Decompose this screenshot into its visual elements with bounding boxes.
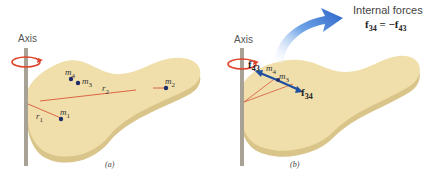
force-f43-label: f43: [248, 58, 260, 73]
mass-m4-label: m4: [266, 63, 276, 76]
mass-m3-dot: [76, 81, 80, 85]
axis-label: Axis: [234, 34, 253, 45]
callout-arrow-icon: [275, 8, 343, 63]
rigid-body-slab: [26, 58, 201, 157]
axis-rod: [240, 48, 244, 166]
panel-b: Axis m3 m4 f43 f34 Internal forces f34 =…: [215, 0, 430, 184]
mass-m3-label: m3: [279, 71, 289, 84]
mass-m1-label: m1: [60, 107, 70, 120]
callout-title: Internal forces: [353, 4, 423, 16]
force-f34-label: f34: [301, 86, 313, 101]
mass-m2-label: m2: [165, 76, 175, 89]
axis-rod: [24, 48, 28, 166]
mass-m3-label: m3: [82, 76, 92, 89]
axis-label: Axis: [18, 33, 37, 44]
panel-a: Axis m1 m2 m3 m4 r1 r2 (a): [0, 0, 215, 184]
caption-a: (a): [105, 160, 114, 169]
mass-m4-label: m4: [65, 67, 75, 80]
radius-r2-label: r2: [102, 83, 109, 96]
caption-b: (b): [290, 160, 299, 169]
callout-equation: f34 = −f43: [365, 18, 406, 33]
radius-r1-label: r1: [36, 111, 43, 124]
